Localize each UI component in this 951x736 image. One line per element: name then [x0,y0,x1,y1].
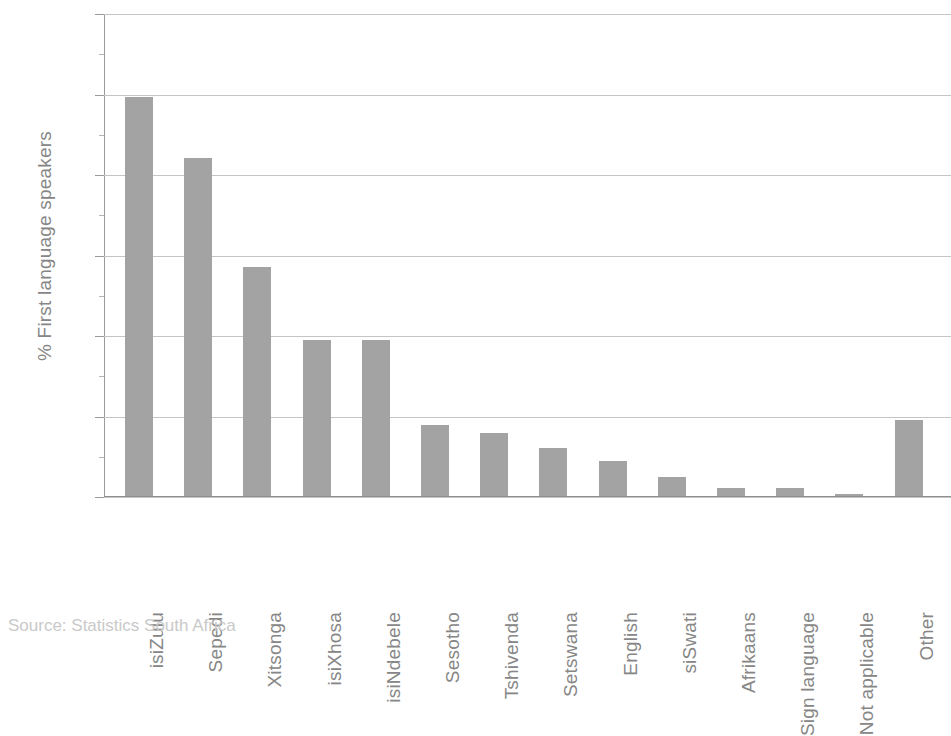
y-axis-label: % First language speakers [34,106,56,386]
y-minor-tick-7.5 [99,376,104,377]
bar [125,97,153,496]
gridline-25 [104,95,951,96]
gridline-15 [104,256,951,257]
y-tick-30 [95,14,104,15]
y-minor-tick-2.5 [99,457,104,458]
y-tick-15 [95,256,104,257]
bar [717,488,745,496]
x-axis-label-sesotho: Sesotho [442,612,464,683]
gridline-5 [104,417,951,418]
bar [776,488,804,496]
bar [421,425,449,496]
x-axis-label-english: English [620,612,642,676]
plot-area: 051015202530 [104,14,951,497]
bar [303,340,331,496]
bar [895,420,923,496]
x-axis-label-isixhosa: isiXhosa [324,612,346,685]
bar [599,461,627,496]
x-axis-label-afrikaans: Afrikaans [738,612,760,693]
x-axis-label-other: Other [916,612,938,661]
y-minor-tick-27.5 [99,54,104,55]
gridline-30 [104,14,951,15]
bar [539,448,567,496]
y-tick-25 [95,95,104,96]
y-tick-5 [95,417,104,418]
y-minor-tick-22.5 [99,135,104,136]
x-axis-category-labels: isiZuluSepediXitsongaisiXhosaisiNdebeleS… [104,500,951,620]
x-axis-label-xitsonga: Xitsonga [264,612,286,688]
gridline-20 [104,175,951,176]
bar [362,340,390,496]
bar [243,267,271,496]
bar [184,158,212,496]
gridline-10 [104,336,951,337]
y-tick-10 [95,336,104,337]
x-axis-label-sign-language: Sign language [797,612,819,736]
gridline-0 [104,497,951,498]
bar [480,433,508,496]
y-minor-tick-12.5 [99,296,104,297]
bar [835,494,863,496]
x-axis-label-isindebele: isiNdebele [383,612,405,703]
x-axis-label-setswana: Setswana [560,612,582,697]
bar [658,477,686,496]
y-minor-tick-17.5 [99,215,104,216]
x-axis-label-not-applicable: Not applicable [856,612,878,735]
y-tick-20 [95,175,104,176]
x-axis-label-siswati: siSwati [679,612,701,674]
y-tick-0 [95,497,104,498]
source-note: Source: Statistics South Africa [8,616,236,636]
x-axis-label-tshivenda: Tshivenda [501,612,523,699]
